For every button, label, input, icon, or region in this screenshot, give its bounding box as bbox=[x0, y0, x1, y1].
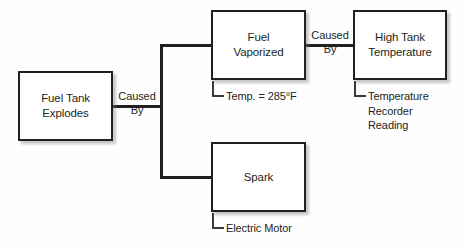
connector-trunk-to-fuel-vaporized bbox=[160, 44, 213, 47]
node-high-tank-temperature[interactable]: High Tank Temperature bbox=[353, 10, 447, 80]
node-fuel-vaporized[interactable]: Fuel Vaporized bbox=[211, 10, 306, 80]
fault-tree-diagram: Fuel Tank Explodes Fuel Vaporized Spark … bbox=[0, 0, 467, 247]
node-fuel-tank-explodes-label: Fuel Tank Explodes bbox=[41, 91, 90, 121]
annotation-temperature-recorder-reading: Temperature Recorder Reading bbox=[368, 89, 429, 133]
node-fuel-tank-explodes[interactable]: Fuel Tank Explodes bbox=[18, 71, 113, 141]
annotation-electric-motor: Electric Motor bbox=[226, 221, 292, 236]
node-high-tank-temperature-label: High Tank Temperature bbox=[368, 30, 431, 60]
node-spark[interactable]: Spark bbox=[211, 142, 306, 212]
leader-line-temp-reading-vertical bbox=[212, 81, 214, 96]
connector-label-caused-by-left: Caused By bbox=[113, 90, 161, 118]
connector-trunk-to-spark bbox=[160, 176, 213, 179]
node-fuel-vaporized-label: Fuel Vaporized bbox=[233, 30, 283, 60]
leader-line-temp-reading-horizontal bbox=[212, 95, 224, 97]
connector-label-caused-by-right-above: Caused bbox=[305, 29, 355, 43]
annotation-temp-reading: Temp. = 285°F bbox=[226, 89, 297, 104]
connector-label-caused-by-left-below: By bbox=[113, 104, 161, 118]
node-spark-label: Spark bbox=[244, 170, 274, 185]
leader-line-temperature-recorder-vertical bbox=[354, 81, 356, 96]
connector-label-caused-by-left-above: Caused bbox=[113, 90, 161, 104]
leader-line-electric-motor-vertical bbox=[212, 213, 214, 228]
leader-line-temperature-recorder-horizontal bbox=[354, 95, 366, 97]
connector-label-caused-by-right: Caused By bbox=[305, 29, 355, 57]
leader-line-electric-motor-horizontal bbox=[212, 227, 224, 229]
connector-label-caused-by-right-below: By bbox=[305, 43, 355, 57]
